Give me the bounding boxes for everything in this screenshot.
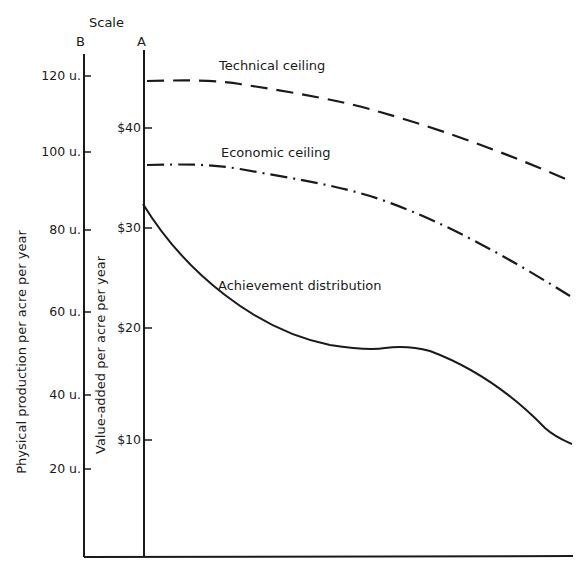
chart-canvas: Scale B A 120 u. 100 u. 80 u. 60 u. 40 u… — [0, 0, 587, 572]
a-tick-30: $30 — [117, 220, 141, 235]
scale-header: Scale — [89, 15, 124, 30]
scale-a-ticks: $40 $30 $20 $10 — [117, 120, 152, 447]
a-tick-40: $40 — [117, 120, 141, 135]
scale-b-letter: B — [76, 34, 85, 49]
b-tick-100: 100 u. — [41, 144, 81, 159]
technical-ceiling-label: Technical ceiling — [218, 58, 325, 73]
baseline-axis — [84, 556, 573, 557]
b-tick-20: 20 u. — [49, 461, 81, 476]
a-tick-20: $20 — [117, 320, 141, 335]
scale-a-letter: A — [137, 34, 146, 49]
economic-ceiling-label: Economic ceiling — [221, 145, 331, 160]
scale-b-axis-title: Physical production per acre per year — [14, 229, 29, 473]
b-tick-60: 60 u. — [49, 304, 81, 319]
achievement-distribution-curve — [143, 204, 572, 444]
b-tick-80: 80 u. — [49, 222, 81, 237]
scale-a-axis-title: Value-added per acre per year — [93, 255, 108, 454]
achievement-distribution-label: Achievement distribution — [218, 278, 382, 293]
b-tick-40: 40 u. — [49, 387, 81, 402]
a-tick-10: $10 — [117, 432, 141, 447]
b-tick-120: 120 u. — [41, 68, 81, 83]
economic-ceiling-curve — [147, 164, 570, 296]
